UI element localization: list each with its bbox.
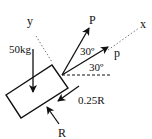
mass-label: 50kg [9,43,32,55]
angle-upper-label: 30º [80,45,95,57]
y-axis-line [36,36,52,62]
x-axis-line [108,28,139,50]
normal-force-label: R [58,126,66,139]
force-p-label: p [114,46,120,60]
force-P-label: P [89,13,96,27]
friction-label: 0.25R [78,94,105,106]
angle-lower-label: 30º [89,61,104,73]
y-axis-label: y [27,14,33,28]
normal-force-arrow [47,107,59,124]
block [6,65,68,118]
x-axis-label: x [140,17,146,31]
free-body-diagram: y x 50kg P p 30º 30º 0.25R R [0,0,152,139]
